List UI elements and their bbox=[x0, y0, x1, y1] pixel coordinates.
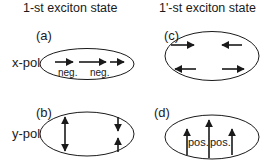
annotation-neg-2: neg. bbox=[90, 67, 109, 78]
panel-a bbox=[40, 49, 134, 80]
ellipse-a bbox=[40, 49, 134, 80]
panel-b bbox=[40, 112, 134, 156]
annotation-pos-1: pos. bbox=[188, 136, 209, 148]
ellipse-c bbox=[165, 32, 259, 81]
annotation-pos-2: pos. bbox=[210, 136, 231, 148]
diagram-canvas bbox=[0, 0, 272, 164]
ellipse-b bbox=[40, 112, 134, 156]
annotation-neg-1: neg. bbox=[58, 67, 77, 78]
panel-c bbox=[165, 32, 259, 81]
